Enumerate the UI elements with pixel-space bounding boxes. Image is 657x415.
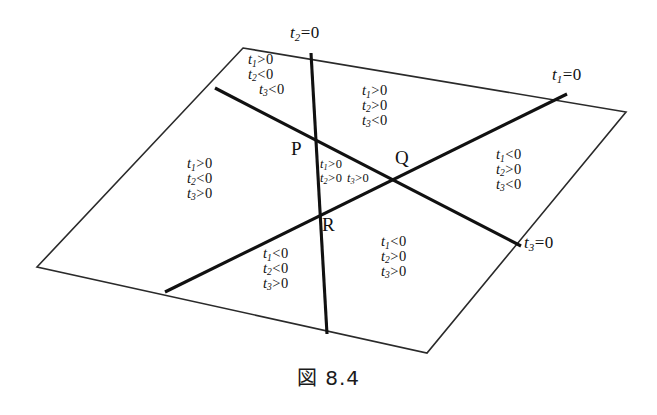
condition-t3: t3>0 bbox=[381, 264, 406, 279]
condition-t1: t1<0 bbox=[496, 147, 521, 162]
condition-t1: t1>0 bbox=[320, 157, 342, 171]
region-left-conditions: t1>0 t2<0 t3>0 bbox=[187, 156, 212, 200]
condition-t1: t1>0 bbox=[248, 52, 284, 67]
region-center-triangle-conditions: t1>0 t2>0t3>0 bbox=[320, 157, 369, 185]
line-label-t2: t2=0 bbox=[290, 24, 319, 41]
figure-8-4: t2=0 t1=0 t3=0 P Q R t1>0 t2<0 t3<0 t1>0… bbox=[0, 0, 657, 415]
condition-row-1: t1>0 bbox=[320, 157, 369, 171]
line-label-t3: t3=0 bbox=[524, 234, 553, 251]
condition-t1: t1>0 bbox=[187, 156, 212, 171]
condition-t1: t1>0 bbox=[362, 83, 387, 98]
condition-t3: t3<0 bbox=[496, 177, 521, 192]
condition-t3: t3<0 bbox=[248, 82, 284, 97]
parallelogram-boundary bbox=[37, 48, 626, 353]
region-bottom-right-conditions: t1<0 t2>0 t3>0 bbox=[381, 234, 406, 278]
region-top-left-conditions: t1>0 t2<0 t3<0 bbox=[248, 52, 284, 96]
condition-t1: t1<0 bbox=[263, 246, 288, 261]
condition-t3: t3>0 bbox=[347, 171, 369, 185]
condition-row-2: t2>0t3>0 bbox=[320, 171, 369, 185]
vertex-label-P: P bbox=[291, 139, 302, 158]
line-label-t1: t1=0 bbox=[552, 66, 581, 83]
condition-t3: t3<0 bbox=[362, 113, 387, 128]
condition-t2: t2>0 bbox=[320, 171, 342, 185]
diagram-canvas bbox=[0, 0, 657, 415]
region-bottom-left-conditions: t1<0 t2<0 t3>0 bbox=[263, 246, 288, 290]
condition-t3: t3>0 bbox=[263, 276, 288, 291]
region-right-conditions: t1<0 t2>0 t3<0 bbox=[496, 147, 521, 191]
figure-caption: 図 8.4 bbox=[0, 362, 657, 391]
condition-t1: t1<0 bbox=[381, 234, 406, 249]
vertex-label-R: R bbox=[322, 215, 335, 234]
condition-t3: t3>0 bbox=[187, 186, 212, 201]
region-top-right-conditions: t1>0 t2>0 t3<0 bbox=[362, 83, 387, 127]
vertex-label-Q: Q bbox=[395, 148, 409, 167]
